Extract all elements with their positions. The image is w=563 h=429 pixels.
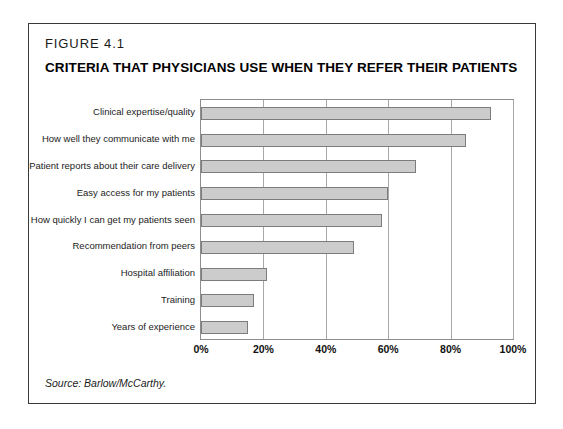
page-title: CRITERIA THAT PHYSICIANS USE WHEN THEY R… — [45, 60, 517, 75]
plot-area — [200, 99, 514, 340]
bar — [201, 134, 466, 147]
bar — [201, 214, 382, 227]
category-label: Clinical expertise/quality — [93, 107, 195, 117]
x-tick-label: 40% — [315, 343, 336, 355]
category-label: How well they communicate with me — [42, 134, 195, 144]
bar — [201, 268, 267, 281]
source-note: Source: Barlow/McCarthy. — [45, 377, 166, 389]
category-label: Hospital affiliation — [121, 268, 195, 278]
bar — [201, 321, 248, 334]
x-tick-label: 100% — [500, 343, 527, 355]
x-tick-label: 20% — [253, 343, 274, 355]
category-label: Patient reports about their care deliver… — [29, 161, 195, 171]
category-label: Recommendation from peers — [73, 241, 196, 251]
x-tick-label: 0% — [193, 343, 208, 355]
category-axis-labels: Clinical expertise/qualityHow well they … — [29, 99, 199, 340]
figure-number: FIGURE 4.1 — [45, 36, 125, 51]
gridline-100 — [513, 100, 514, 339]
bar — [201, 294, 254, 307]
bar — [201, 241, 354, 254]
category-label: Years of experience — [111, 322, 195, 332]
bar-chart: Clinical expertise/qualityHow well they … — [29, 96, 537, 346]
category-label: Easy access for my patients — [77, 188, 195, 198]
figure-container: FIGURE 4.1 CRITERIA THAT PHYSICIANS USE … — [28, 23, 536, 404]
x-tick-label: 80% — [440, 343, 461, 355]
category-label: Training — [161, 295, 195, 305]
category-label: How quickly I can get my patients seen — [31, 215, 195, 225]
bar — [201, 187, 388, 200]
bar — [201, 107, 491, 120]
x-tick-label: 60% — [378, 343, 399, 355]
bar — [201, 160, 416, 173]
